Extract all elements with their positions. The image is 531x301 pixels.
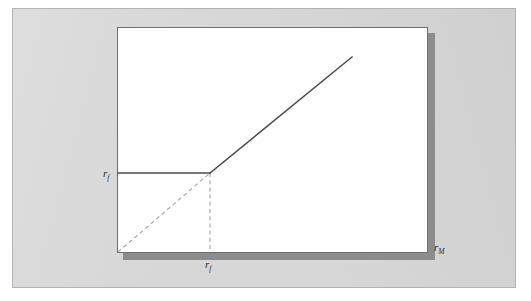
- x-axis-end-label: rM: [434, 241, 445, 256]
- reference-diagonal-dashed-line: [118, 173, 210, 252]
- x-axis-end-label-subscript: M: [437, 247, 445, 256]
- y-axis-label: rf: [103, 167, 110, 182]
- x-axis-kink-label-subscript: f: [209, 264, 212, 273]
- x-axis-kink-label: rf: [205, 258, 212, 273]
- rising-segment-solid-line: [210, 57, 352, 173]
- plot-drawing-surface: rf rf rM: [0, 0, 531, 301]
- figure-root: rf rf rM: [0, 0, 531, 301]
- y-axis-label-subscript: f: [107, 173, 110, 182]
